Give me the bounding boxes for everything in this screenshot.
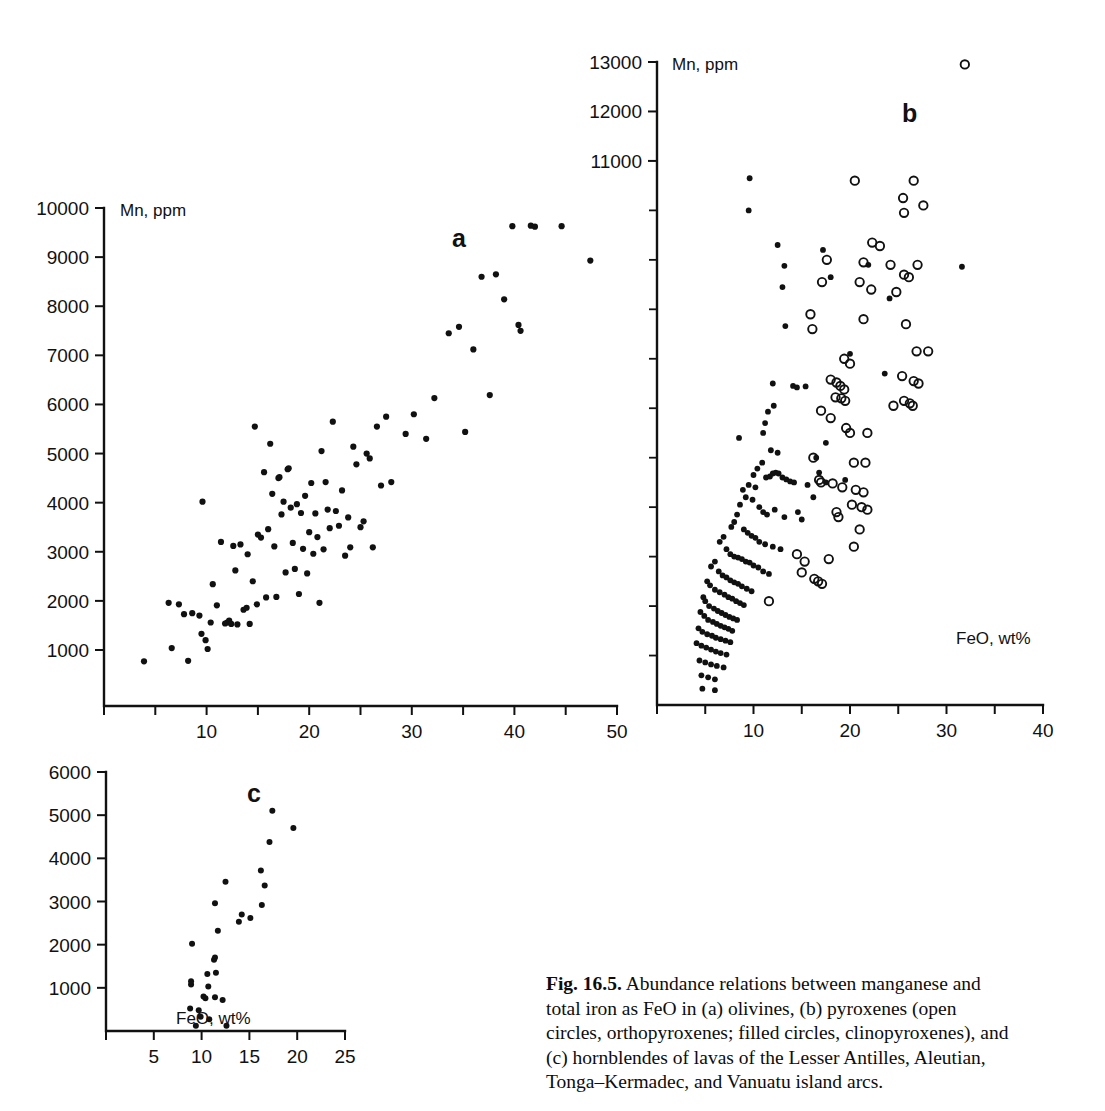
data-point-filled	[423, 436, 429, 442]
data-point-open	[961, 60, 969, 68]
data-point-filled	[212, 955, 218, 961]
data-point-filled	[202, 995, 208, 1001]
data-point-filled	[734, 617, 740, 623]
x-axis-tick-label: 20	[287, 1046, 308, 1067]
data-point-filled	[781, 514, 787, 520]
data-point-filled	[727, 639, 733, 645]
data-point-filled	[718, 650, 724, 656]
data-point-filled	[462, 429, 468, 435]
data-point-open	[855, 525, 863, 533]
data-point-filled	[262, 883, 268, 889]
data-point-filled	[780, 284, 786, 290]
data-point-filled	[708, 662, 714, 668]
data-point-filled	[176, 601, 182, 607]
data-point-open	[818, 278, 826, 286]
data-point-filled	[762, 541, 768, 547]
data-point-filled	[754, 466, 760, 472]
data-point-filled	[269, 491, 275, 497]
data-point-filled	[196, 1007, 202, 1013]
data-point-open	[825, 555, 833, 563]
data-point-filled	[286, 465, 292, 471]
data-point-open	[889, 402, 897, 410]
data-point-filled	[357, 524, 363, 530]
panel-c-hornblendes: 100020003000400050006000510152025FeO, wt…	[0, 745, 400, 1111]
x-axis-title: FeO, wt%	[956, 629, 1031, 648]
x-axis-tick-label: 40	[504, 721, 525, 742]
data-point-filled	[169, 645, 175, 651]
data-point-filled	[470, 346, 476, 352]
data-point-filled	[258, 534, 264, 540]
data-point-filled	[314, 534, 320, 540]
data-point-filled	[188, 978, 194, 984]
data-point-open	[859, 258, 867, 266]
y-axis-tick-label: 4000	[47, 493, 89, 514]
data-point-open	[876, 242, 884, 250]
data-point-filled	[487, 392, 493, 398]
panel-c-plot: 100020003000400050006000510152025FeO, wt…	[0, 745, 400, 1111]
data-point-filled	[185, 658, 191, 664]
data-point-filled	[370, 544, 376, 550]
data-point-filled	[198, 1014, 204, 1020]
x-axis-tick-label: 30	[936, 720, 957, 741]
data-point-filled	[756, 504, 762, 510]
data-point-filled	[181, 611, 187, 617]
data-point-filled	[320, 546, 326, 552]
data-point-filled	[751, 472, 757, 478]
data-point-open	[798, 568, 806, 576]
data-point-filled	[388, 479, 394, 485]
data-point-filled	[330, 419, 336, 425]
x-axis-tick-label: 10	[743, 720, 764, 741]
data-point-filled	[712, 676, 718, 682]
data-point-filled	[259, 902, 265, 908]
panel-b-pyroxenes: 11000120001300010203040Mn, ppmFeO, wt%b	[560, 0, 1105, 745]
data-point-filled	[206, 1016, 212, 1022]
y-axis-title: Mn, ppm	[120, 201, 186, 220]
data-point-open	[838, 483, 846, 491]
data-point-open	[859, 488, 867, 496]
data-point-filled	[353, 461, 359, 467]
data-point-filled	[791, 480, 797, 486]
data-point-filled	[842, 477, 848, 483]
data-point-filled	[708, 564, 714, 570]
data-point-filled	[212, 900, 218, 906]
data-point-filled	[213, 970, 219, 976]
data-point-filled	[290, 825, 296, 831]
data-point-filled	[212, 994, 218, 1000]
data-point-filled	[236, 919, 242, 925]
data-point-filled	[714, 663, 720, 669]
y-axis-tick-label: 5000	[47, 444, 89, 465]
data-point-filled	[478, 274, 484, 280]
data-point-filled	[734, 512, 740, 518]
data-point-filled	[304, 570, 310, 576]
y-axis-tick-label: 6000	[49, 762, 91, 783]
data-point-open	[886, 261, 894, 269]
data-point-filled	[193, 1023, 199, 1029]
data-point-filled	[882, 371, 888, 377]
data-point-filled	[202, 637, 208, 643]
data-point-filled	[755, 565, 761, 571]
x-axis-tick-label: 25	[334, 1046, 355, 1067]
data-point-filled	[756, 539, 762, 545]
data-point-filled	[166, 600, 172, 606]
figure-caption: Fig. 16.5. Abundance relations between m…	[546, 972, 1016, 1095]
data-point-filled	[493, 271, 499, 277]
data-point-filled	[244, 605, 250, 611]
data-point-filled	[339, 487, 345, 493]
data-point-filled	[828, 274, 834, 280]
y-axis-tick-label: 11000	[591, 151, 642, 172]
x-axis-tick-label: 30	[401, 721, 422, 742]
data-point-filled	[290, 540, 296, 546]
data-point-filled	[276, 474, 282, 480]
data-point-filled	[360, 518, 366, 524]
data-point-filled	[189, 941, 195, 947]
data-point-filled	[218, 539, 224, 545]
panel-letter-b: b	[902, 99, 917, 127]
data-point-filled	[198, 631, 204, 637]
data-point-filled	[336, 523, 342, 529]
data-point-filled	[810, 494, 816, 500]
data-point-filled	[698, 672, 704, 678]
data-point-filled	[403, 431, 409, 437]
x-axis-tick-label: 20	[839, 720, 860, 741]
data-point-open	[800, 557, 808, 565]
data-point-filled	[746, 482, 752, 488]
